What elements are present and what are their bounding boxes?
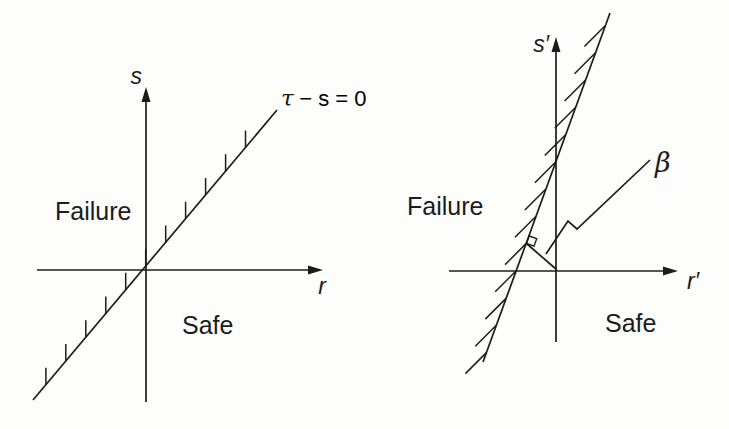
left-limit-line-equation: τ − s = 0 — [281, 85, 366, 111]
limit-state-diagrams: s r τ − s = 0 Failure Safe — [0, 0, 729, 429]
right-y-axis-label: s′ — [533, 31, 550, 57]
right-diagram: s′ r′ β Failure Safe — [407, 13, 700, 374]
right-angle-marker — [527, 236, 537, 246]
figure-canvas: s r τ − s = 0 Failure Safe — [0, 0, 729, 429]
right-y-axis-arrowhead-icon — [552, 37, 561, 52]
left-y-axis-arrowhead-icon — [142, 87, 151, 102]
right-x-axis-label: r′ — [687, 268, 700, 294]
right-safe-region-label: Safe — [605, 309, 656, 337]
equation-rest: − s = 0 — [299, 86, 366, 111]
left-limit-state-line — [33, 110, 277, 400]
left-y-axis-label: s — [131, 63, 143, 89]
right-limit-state-line — [483, 13, 610, 362]
right-failure-region-label: Failure — [407, 192, 483, 220]
left-diagram: s r τ − s = 0 Failure Safe — [33, 63, 366, 402]
left-failure-region-label: Failure — [55, 197, 131, 225]
right-hatch-marks — [465, 26, 605, 374]
beta-distance-segment — [527, 244, 557, 270]
beta-leader-arrow — [546, 160, 650, 254]
right-x-axis-arrowhead-icon — [663, 267, 678, 276]
tau-symbol: τ — [281, 85, 295, 111]
beta-symbol-label: β — [654, 147, 671, 178]
left-safe-region-label: Safe — [182, 311, 233, 339]
left-x-axis-label: r — [318, 273, 327, 299]
